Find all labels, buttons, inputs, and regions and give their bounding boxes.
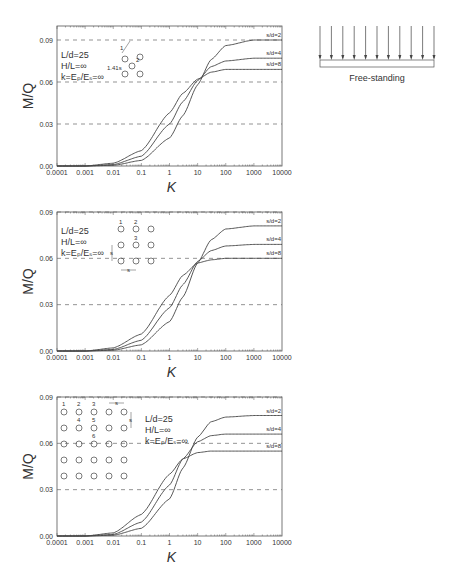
series-label: s/d=4 <box>266 426 282 432</box>
pile-number: 2 <box>134 219 138 225</box>
series-label: s/d=8 <box>266 443 282 449</box>
x-tick-label: 1000 <box>246 539 262 546</box>
arrow-head-icon <box>387 55 390 60</box>
x-tick-label: 10000 <box>272 539 292 546</box>
x-tick-label: 10 <box>194 169 202 176</box>
x-tick-label: 1 <box>168 169 172 176</box>
x-tick-label: 0.01 <box>106 354 120 361</box>
y-tick-label: 0.03 <box>39 121 53 128</box>
arrow-head-icon <box>319 55 322 60</box>
arrow-head-icon <box>330 55 333 60</box>
diagram-caption: Free-standing <box>349 73 405 83</box>
pile-icon <box>122 71 128 77</box>
y-tick-label: 0.06 <box>39 440 53 447</box>
pile-icon <box>76 457 82 463</box>
curve-s-d-8 <box>57 451 282 536</box>
x-tick-label: 100 <box>220 539 232 546</box>
curve-s-d-4 <box>57 434 282 536</box>
x-tick-label: 100 <box>220 169 232 176</box>
x-axis-label: K <box>167 364 177 380</box>
arrow-head-icon <box>353 55 356 60</box>
pile-icon <box>91 473 97 479</box>
chart-panel-1: 0.00010.0010.010.11101001000100000.000.0… <box>20 26 292 195</box>
pile-icon <box>61 473 67 479</box>
y-tick-label: 0.09 <box>39 394 53 401</box>
free-standing-diagram: Free-standing <box>319 26 436 83</box>
pile-icon <box>106 457 112 463</box>
arrow-head-icon <box>341 55 344 60</box>
pile-icon <box>76 441 82 447</box>
param-text: k=Eₚ/Eₛ=∞ <box>61 72 104 82</box>
arrow-head-icon <box>364 55 367 60</box>
spacing-label: s <box>127 267 130 273</box>
pile-number: 5 <box>92 417 96 423</box>
pile-icon <box>91 457 97 463</box>
pile-number: 3 <box>92 401 96 407</box>
pile-icon <box>76 409 82 415</box>
pile-number: 2 <box>77 401 81 407</box>
x-tick-label: 0.1 <box>137 539 147 546</box>
pile-icon <box>121 409 127 415</box>
param-text: L/d=25 <box>145 414 173 424</box>
pile-icon <box>121 473 127 479</box>
pile-number: 1 <box>120 45 124 51</box>
pile-icon <box>91 409 97 415</box>
pile-number: 3 <box>134 235 138 241</box>
pile-icon <box>106 425 112 431</box>
y-tick-label: 0.00 <box>39 163 53 170</box>
pile-icon <box>122 56 128 62</box>
x-tick-label: 0.01 <box>106 169 120 176</box>
pile-icon <box>133 242 139 248</box>
series-label: s/d=4 <box>266 236 282 242</box>
x-tick-label: 1000 <box>246 169 262 176</box>
pile-icon <box>118 226 124 232</box>
y-tick-label: 0.03 <box>39 486 53 493</box>
spacing-label: s <box>110 250 113 256</box>
chart-panel-3: 0.00010.0010.010.11101001000100000.000.0… <box>20 394 292 566</box>
y-tick-label: 0.06 <box>39 79 53 86</box>
param-text: L/d=25 <box>61 226 89 236</box>
x-tick-label: 100 <box>220 354 232 361</box>
pile-icon <box>118 258 124 264</box>
pile-icon <box>148 258 154 264</box>
x-tick-label: 0.0001 <box>46 539 68 546</box>
y-tick-label: 0.03 <box>39 301 53 308</box>
spacing-label: 1.41s <box>107 65 122 71</box>
pile-number: 1 <box>62 401 66 407</box>
param-text: L/d=25 <box>61 50 89 60</box>
pile-icon <box>61 409 67 415</box>
series-label: s/d=8 <box>266 250 282 256</box>
param-text: k=Eₚ/Eₛ=∞ <box>145 436 188 446</box>
y-axis-label: M/Q <box>20 453 36 480</box>
spacing-label: s <box>115 400 118 406</box>
x-tick-label: 10 <box>194 354 202 361</box>
pile-icon <box>121 425 127 431</box>
pile-icon <box>148 242 154 248</box>
y-axis-label: M/Q <box>20 83 36 110</box>
pile-number: 4 <box>77 417 81 423</box>
pile-icon <box>121 441 127 447</box>
pile-icon <box>106 441 112 447</box>
x-tick-label: 0.001 <box>76 539 94 546</box>
x-tick-label: 0.0001 <box>46 169 68 176</box>
pile-icon <box>91 425 97 431</box>
series-label: s/d=4 <box>266 50 282 56</box>
pile-icon <box>121 457 127 463</box>
series-label: s/d=8 <box>266 61 282 67</box>
y-tick-label: 0.00 <box>39 533 53 540</box>
arrow-head-icon <box>376 55 379 60</box>
x-tick-label: 0.1 <box>137 169 147 176</box>
x-tick-label: 0.0001 <box>46 354 68 361</box>
x-tick-label: 10 <box>194 539 202 546</box>
plot-frame <box>57 26 282 166</box>
param-text: k=Eₚ/Eₛ=∞ <box>61 248 104 258</box>
raft-cap <box>320 60 434 67</box>
pile-icon <box>91 441 97 447</box>
x-tick-label: 1 <box>168 539 172 546</box>
arrow-head-icon <box>398 55 401 60</box>
x-tick-label: 0.001 <box>76 169 94 176</box>
y-tick-label: 0.00 <box>39 348 53 355</box>
series-label: s/d=2 <box>266 218 282 224</box>
series-label: s/d=2 <box>266 32 282 38</box>
y-tick-label: 0.09 <box>39 209 53 216</box>
